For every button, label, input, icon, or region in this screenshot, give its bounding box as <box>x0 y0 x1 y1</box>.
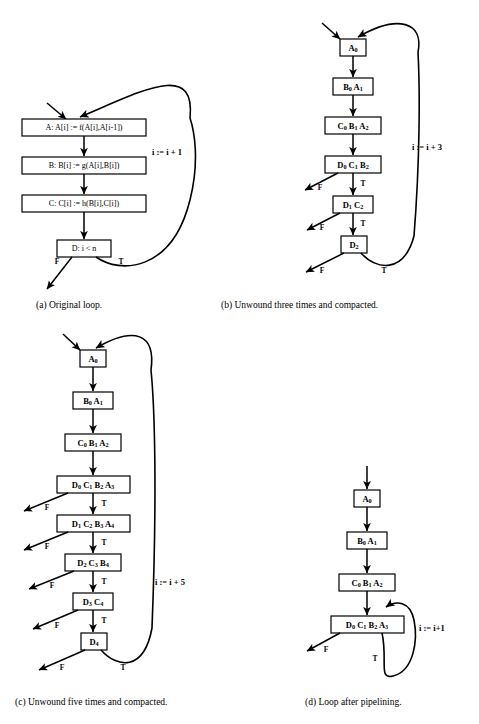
panel-d-loop-label: i := i+1 <box>419 623 445 633</box>
panel-c-true-label-7: T <box>120 663 125 672</box>
panel-c-false-label-5: F <box>50 581 55 590</box>
panel-b-false-label-3: F <box>318 183 323 192</box>
figure-loop-pipelining: A: A[i] := f(A[i],A[i-1]) B: B[i] := g(A… <box>0 0 479 724</box>
panel-b-entry-arrow <box>322 23 340 39</box>
panel-d-false-label: F <box>324 645 329 654</box>
panel-c-false-label-7: F <box>60 663 65 672</box>
panel-b-false-label-5: F <box>320 266 325 275</box>
panel-a-node-C-label: C: C[i] := h(B[i],C[i]) <box>49 199 120 208</box>
panel-a-entry-arrow <box>47 103 66 119</box>
caption-panel-a: (a) Original loop. <box>36 300 102 310</box>
panel-c-true-label-4: T <box>101 538 106 547</box>
caption-panel-c: (c) Unwound five times and compacted. <box>15 697 167 707</box>
panel-b-loop-arc-head <box>358 24 419 52</box>
panel-d-true-self-loop <box>382 603 415 676</box>
panel-a-node-A-label: A: A[i] := f(A[i],A[i-1]) <box>46 123 123 132</box>
panel-c-false-label-3: F <box>45 503 50 512</box>
panel-b-loop-label: i := i + 3 <box>412 142 442 152</box>
panel-b-true-label-5: T <box>381 266 386 275</box>
panel-a-loop-arc-head <box>80 85 190 118</box>
panel-c-node-5-label: D2 C3 B4 <box>77 557 108 568</box>
panel-a-node-B-label: B: B[i] := g(A[i],B[i]) <box>49 161 120 170</box>
panel-c-true-label-3: T <box>101 499 106 508</box>
panel-a-false-edge <box>47 257 72 289</box>
panel-a-node-D-label: D: i < n <box>72 244 97 253</box>
panel-d-node-2-label: C0 B1 A2 <box>351 577 382 588</box>
panel-b: A0 B0 A1 C0 B1 A2 D0 C1 B2 F T D1 C2 F T… <box>305 23 442 275</box>
panel-b-true-label-3: T <box>360 179 365 188</box>
panel-c-loop-label: i := i + 5 <box>155 577 185 587</box>
panel-b-false-edge-5 <box>306 253 344 272</box>
panel-b-node-3-label: D0 C1 B2 <box>337 159 368 170</box>
panel-b-false-label-4: F <box>320 223 325 232</box>
panel-b-true-label-4: T <box>360 219 365 228</box>
caption-panel-d: (d) Loop after pipelining. <box>305 697 402 707</box>
panel-c-true-label-5: T <box>101 577 106 586</box>
panel-c-false-label-6: F <box>55 621 60 630</box>
panel-c-false-label-4: F <box>45 542 50 551</box>
panel-d: A0 B0 A1 C0 B1 A2 D0 C1 B2 A3 F T i := i… <box>307 466 445 677</box>
panel-b-node-2-label: C0 B1 A2 <box>337 120 368 131</box>
panel-c-true-label-6: T <box>101 616 106 625</box>
panel-a: A: A[i] := f(A[i],A[i-1]) B: B[i] := g(A… <box>22 85 195 289</box>
panel-c-entry-arrow <box>63 334 80 350</box>
panel-c-node-2-label: C0 B1 A2 <box>77 437 108 448</box>
panel-a-loop-label: i := i + 1 <box>152 147 182 157</box>
panel-c: A0 B0 A1 C0 B1 A2 D0 C1 B2 A3 F T D1 C2 … <box>24 334 185 672</box>
panel-a-false-label: F <box>55 257 60 266</box>
panel-a-true-label: T <box>118 257 123 266</box>
caption-panel-b: (b) Unwound three times and compacted. <box>221 300 378 310</box>
diagram-canvas: A: A[i] := f(A[i],A[i-1]) B: B[i] := g(A… <box>0 0 479 724</box>
panel-d-true-label: T <box>372 654 377 663</box>
